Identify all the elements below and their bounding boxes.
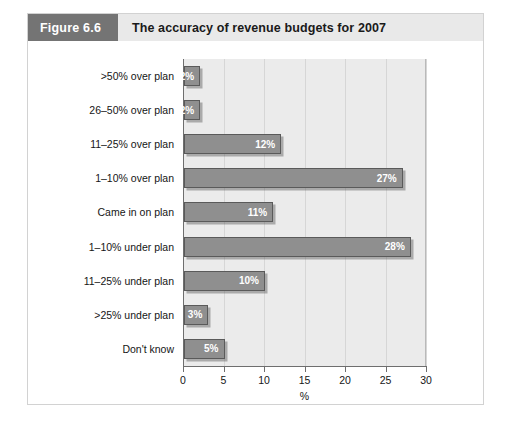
figure-header: Figure 6.6 The accuracy of revenue budge…: [28, 14, 483, 41]
bar: 2%: [184, 66, 200, 86]
bar-value-label: 11%: [248, 207, 272, 218]
x-tick: [386, 367, 387, 372]
x-tick-label: 5: [221, 374, 227, 386]
bar-row: 26–50% over plan2%: [183, 93, 426, 127]
x-tick-label: 10: [258, 374, 270, 386]
bar-row: Don't know5%: [183, 332, 426, 366]
bar-value-label: 3%: [188, 309, 207, 320]
figure-card: Figure 6.6 The accuracy of revenue budge…: [27, 13, 484, 405]
x-tick-label: 0: [180, 374, 186, 386]
bar: 12%: [184, 134, 281, 154]
bar-row: 1–10% under plan28%: [183, 230, 426, 264]
bar: 5%: [184, 339, 225, 359]
bar: 11%: [184, 202, 273, 222]
category-label: 1–10% under plan: [33, 241, 183, 253]
category-label: 11–25% over plan: [33, 138, 183, 150]
bar-row: 1–10% over plan27%: [183, 161, 426, 195]
bar: 3%: [184, 305, 208, 325]
bar-row: >25% under plan3%: [183, 298, 426, 332]
bar-row: 11–25% over plan12%: [183, 127, 426, 161]
category-label: >25% under plan: [33, 309, 183, 321]
x-axis-title: %: [183, 390, 426, 402]
x-tick-label: 20: [339, 374, 351, 386]
category-label: 1–10% over plan: [33, 172, 183, 184]
x-tick: [224, 367, 225, 372]
category-label: >50% over plan: [33, 70, 183, 82]
x-tick: [264, 367, 265, 372]
bar-value-label: 10%: [239, 275, 264, 286]
bar: 27%: [184, 168, 403, 188]
bar: 10%: [184, 271, 265, 291]
x-tick-label: 25: [380, 374, 392, 386]
x-tick-label: 15: [299, 374, 311, 386]
bar-value-label: 12%: [255, 139, 280, 150]
bar-value-label: 27%: [377, 173, 402, 184]
x-tick: [426, 367, 427, 372]
gridline: [426, 59, 427, 366]
bar-value-label: 28%: [385, 241, 410, 252]
figure-number-badge: Figure 6.6: [28, 14, 118, 41]
figure-title: The accuracy of revenue budgets for 2007: [118, 14, 483, 41]
x-tick: [305, 367, 306, 372]
bar: 28%: [184, 237, 411, 257]
x-tick: [183, 367, 184, 372]
bar-value-label: 2%: [180, 71, 199, 82]
category-label: 26–50% over plan: [33, 104, 183, 116]
bar-value-label: 5%: [204, 343, 223, 354]
bar: 2%: [184, 100, 200, 120]
x-tick: [345, 367, 346, 372]
bar-row: 11–25% under plan10%: [183, 264, 426, 298]
bar-value-label: 2%: [180, 105, 199, 116]
chart-body: >50% over plan2%26–50% over plan2%11–25%…: [28, 41, 483, 404]
bar-row: >50% over plan2%: [183, 59, 426, 93]
category-label: Don't know: [33, 343, 183, 355]
bar-row: Came in on plan11%: [183, 195, 426, 229]
category-label: Came in on plan: [33, 206, 183, 218]
x-tick-label: 30: [420, 374, 432, 386]
category-label: 11–25% under plan: [33, 275, 183, 287]
